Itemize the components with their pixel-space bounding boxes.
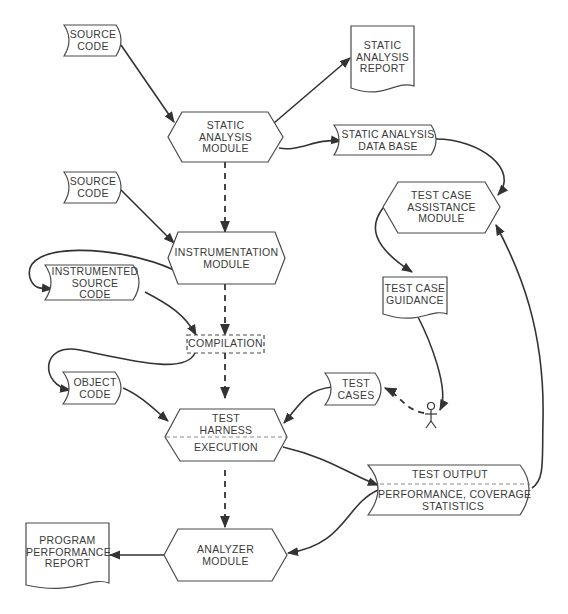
label-line: STATISTICS xyxy=(378,501,528,513)
label-line: CODE xyxy=(64,41,122,53)
label-line: MODULE xyxy=(383,213,500,225)
label-line: STATIC xyxy=(168,120,283,132)
label-line: STATIC xyxy=(351,40,414,52)
edge-harness-to-test-output xyxy=(283,447,378,485)
analyzer-module-label: ANALYZER MODULE xyxy=(164,544,287,567)
test-output-label: TEST OUTPUT xyxy=(370,469,530,481)
diagram-canvas xyxy=(0,0,568,614)
label-line: PERFORMANCE, COVERAGE xyxy=(378,489,528,501)
label-line: CODE xyxy=(64,188,122,200)
label-line: ANALYZER xyxy=(164,544,287,556)
label-line: HARNESS xyxy=(165,425,287,437)
label-line: MODULE xyxy=(164,556,287,568)
label-line: STATIC ANALYSIS xyxy=(338,129,438,141)
label-line: CODE xyxy=(50,289,140,301)
label-line: CASES xyxy=(330,390,382,402)
test-output-sub-label: PERFORMANCE, COVERAGE STATISTICS xyxy=(378,489,528,512)
label-line: REPORT xyxy=(351,63,414,75)
label-line: INSTRUMENTATION xyxy=(168,247,285,259)
program-performance-report-label: PROGRAM PERFORMANCE REPORT xyxy=(26,535,109,570)
edge-static-module-to-database xyxy=(279,141,341,149)
label-line: TEST CASE xyxy=(383,190,500,202)
label-line: TEST OUTPUT xyxy=(370,469,530,481)
label-line: GUIDANCE xyxy=(383,295,447,307)
label-line: TEST CASE xyxy=(383,283,447,295)
label-line: PROGRAM xyxy=(26,535,109,547)
label-line: CODE xyxy=(67,389,123,401)
source-code-1-label: SOURCE CODE xyxy=(64,29,122,52)
edge-test-output-to-tca xyxy=(496,225,543,488)
test-harness-label: TEST HARNESS xyxy=(165,413,287,436)
edge-user-to-test-cases xyxy=(385,388,424,413)
test-case-assistance-module-label: TEST CASE ASSISTANCE MODULE xyxy=(383,190,500,225)
edge-guidance-to-user xyxy=(417,315,443,410)
instrumented-source-code-label: INSTRUMENTED SOURCE CODE xyxy=(50,266,140,301)
label-line: TEST xyxy=(165,413,287,425)
test-cases-label: TEST CASES xyxy=(330,378,382,401)
user-actor-icon xyxy=(425,403,437,429)
static-analysis-database-label: STATIC ANALYSIS DATA BASE xyxy=(338,129,438,152)
label-line: COMPILATION xyxy=(187,338,264,350)
static-analysis-report-label: STATIC ANALYSIS REPORT xyxy=(351,40,414,75)
label-line: INSTRUMENTED xyxy=(50,266,140,278)
label-line: MODULE xyxy=(168,143,283,155)
label-line: MODULE xyxy=(168,259,285,271)
edge-test-output-to-analyzer xyxy=(288,490,378,553)
label-line: REPORT xyxy=(26,558,109,570)
label-line: SOURCE xyxy=(64,29,122,41)
test-harness-sub-label: EXECUTION xyxy=(165,442,287,454)
static-analysis-module-label: STATIC ANALYSIS MODULE xyxy=(168,120,283,155)
edge-source2-to-instrumentation xyxy=(121,190,174,243)
object-code-label: OBJECT CODE xyxy=(67,377,123,400)
instrumentation-module-label: INSTRUMENTATION MODULE xyxy=(168,247,285,270)
edge-source1-to-static-module xyxy=(121,45,174,122)
label-line: OBJECT xyxy=(67,377,123,389)
compilation-label: COMPILATION xyxy=(187,338,264,350)
label-line: TEST xyxy=(330,378,382,390)
label-line: SOURCE xyxy=(64,176,122,188)
edge-object-code-to-harness xyxy=(123,388,168,421)
label-line: DATA BASE xyxy=(338,141,438,153)
label-line: EXECUTION xyxy=(165,442,287,454)
edge-static-module-to-report xyxy=(274,58,350,123)
edge-instrumented-code-to-compilation xyxy=(145,292,196,335)
source-code-2-label: SOURCE CODE xyxy=(64,176,122,199)
test-case-guidance-label: TEST CASE GUIDANCE xyxy=(383,283,447,306)
